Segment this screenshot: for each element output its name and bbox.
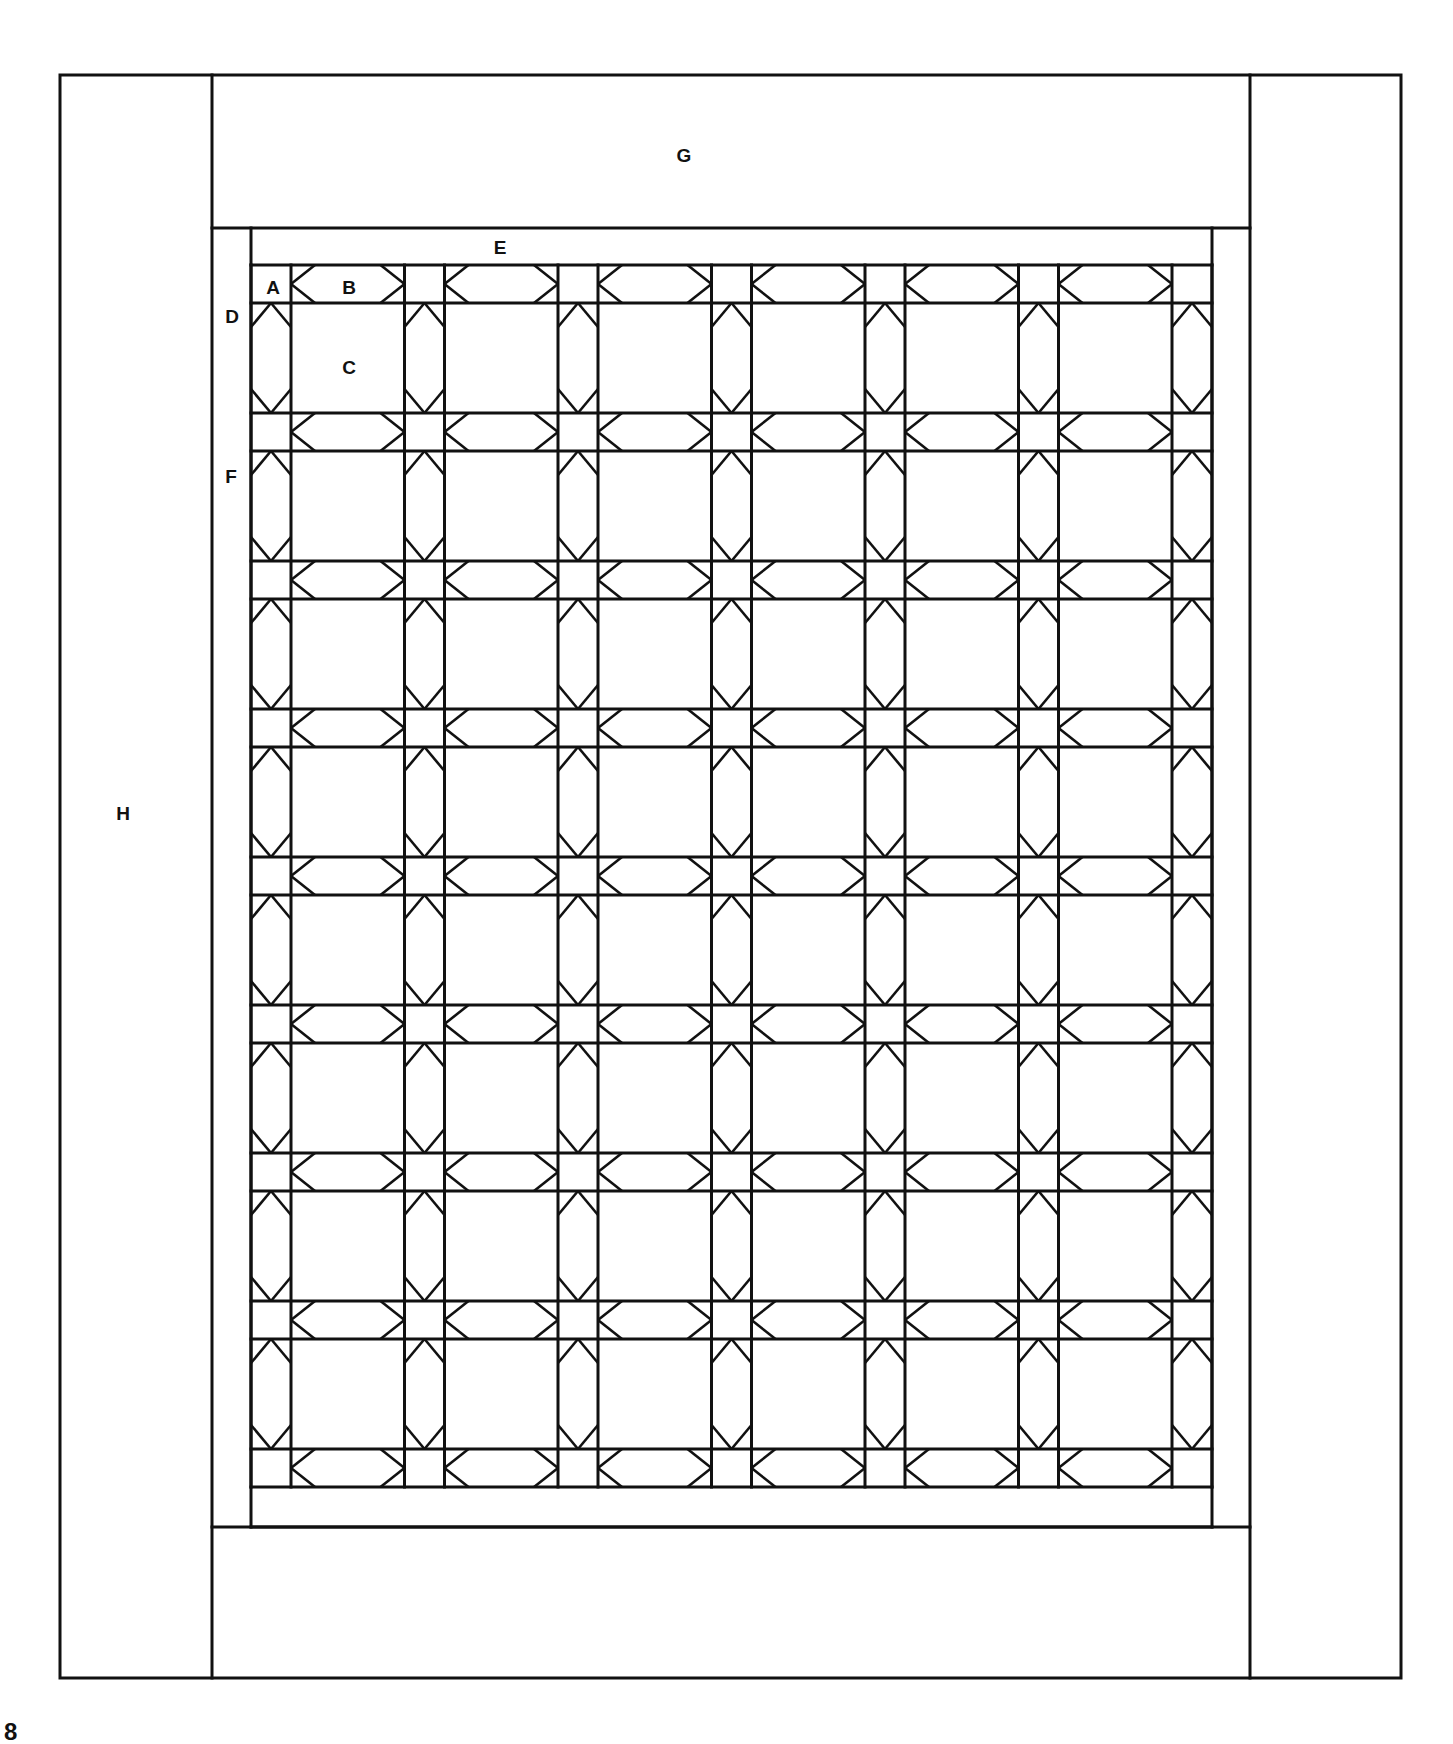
label-e: E: [494, 238, 507, 257]
label-h: H: [116, 804, 130, 823]
block-grid: [251, 265, 1212, 1527]
label-c: C: [342, 358, 356, 377]
label-f: F: [225, 467, 237, 486]
label-d: D: [225, 307, 239, 326]
page-number: 8: [4, 1718, 17, 1744]
label-b: B: [342, 278, 356, 297]
label-g: G: [677, 146, 692, 165]
label-a: A: [266, 278, 280, 297]
